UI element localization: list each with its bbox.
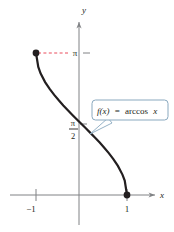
x-tick-label-one: 1 xyxy=(125,204,130,214)
endpoint-dot-right xyxy=(124,192,131,199)
y-axis-label: y xyxy=(81,5,86,15)
tick-group xyxy=(36,53,127,201)
callout-label: f(x) = arccos x xyxy=(97,106,157,116)
y-tick-label-pi-over-two: π 2 xyxy=(69,118,78,141)
arccos-graph-figure: y x −1 1 π π 2 f(x) = arccos x xyxy=(0,0,174,232)
callout-label-variable: x xyxy=(152,106,157,116)
endpoint-dot-left xyxy=(33,50,40,57)
plot-canvas: y x −1 1 π π 2 f(x) = arccos x xyxy=(0,0,174,232)
callout-label-equals: = xyxy=(115,106,120,116)
y-tick-label-pi: π xyxy=(73,48,78,58)
function-callout[interactable]: f(x) = arccos x xyxy=(90,100,168,134)
x-axis-label: x xyxy=(159,190,164,200)
callout-label-function: f(x) xyxy=(97,106,110,116)
pi-over-two-denominator: 2 xyxy=(71,131,75,141)
pi-over-two-numerator: π xyxy=(71,118,76,128)
arccos-curve xyxy=(36,53,127,195)
callout-label-expression: arccos xyxy=(125,106,148,116)
x-tick-label-negative-one: −1 xyxy=(26,204,36,214)
